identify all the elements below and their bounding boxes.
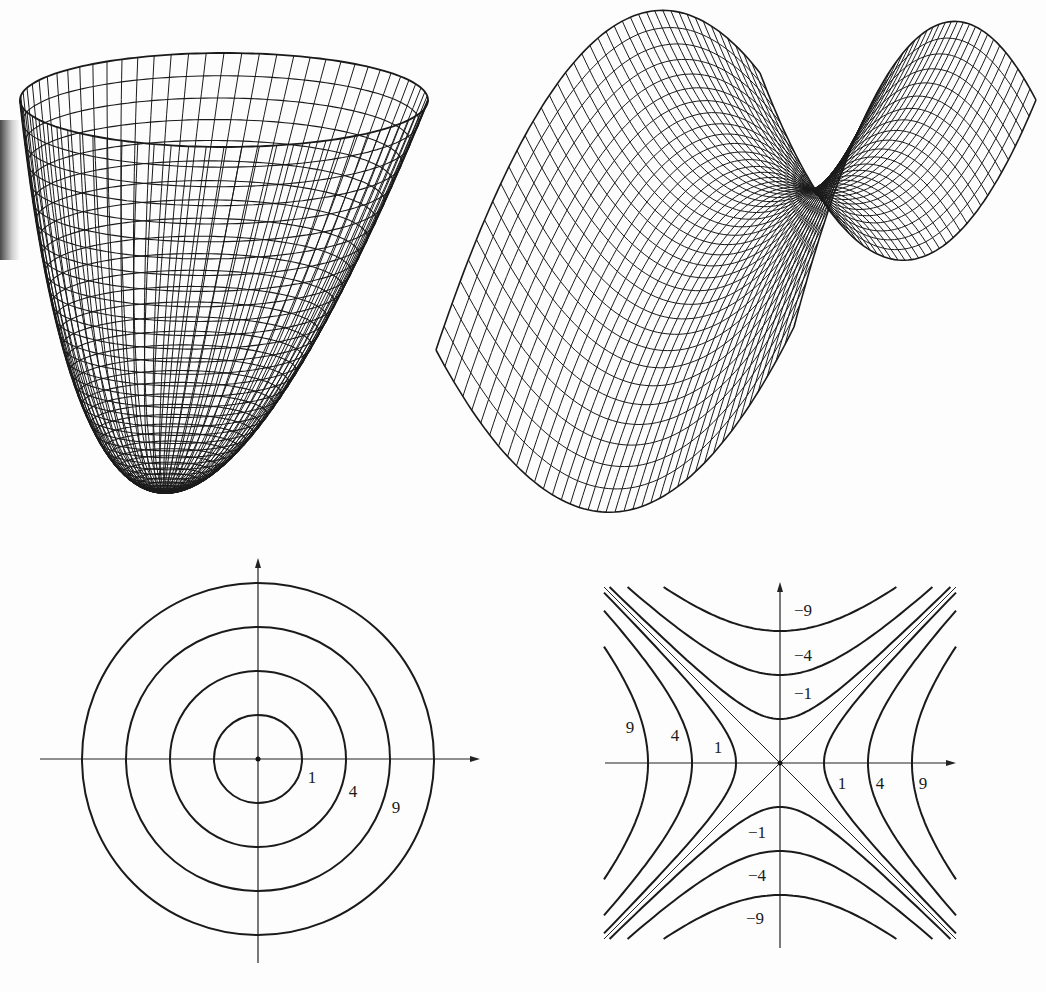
page-binding-shadow [0, 120, 20, 260]
contour-label: 9 [626, 718, 635, 737]
plot-curve [517, 134, 823, 466]
origin-dot [256, 757, 261, 762]
paraboloid-surface [20, 53, 428, 493]
x-axis-arrow-icon [470, 756, 480, 762]
contour-label: 1 [714, 738, 723, 757]
contour-label: −1 [794, 684, 812, 703]
plot-curve [597, 187, 884, 511]
plot-curve [722, 130, 980, 442]
y-axis-arrow-icon [255, 558, 261, 568]
plot-curve [460, 262, 812, 445]
contour-label: 4 [671, 726, 680, 745]
x-axis-arrow-icon [946, 760, 956, 766]
plot-curve [736, 46, 1018, 231]
y-axis-arrow-icon [777, 582, 783, 592]
plot-curve [758, 83, 1008, 392]
contour-label: 9 [392, 798, 401, 817]
contour-label: −9 [746, 909, 764, 928]
plot-curve [33, 161, 384, 242]
saddle-surface [436, 10, 1036, 512]
plot-curve [731, 120, 987, 431]
plot-curve [588, 185, 877, 510]
contour-label: 4 [349, 782, 358, 801]
contour-label: 1 [838, 774, 847, 793]
figure-page: 149 −9−4−1941149−1−4−9 [0, 0, 1046, 992]
plot-curve [647, 12, 952, 190]
circle-contour-plot: 149 [40, 558, 480, 963]
contour-label: 1 [308, 768, 317, 787]
plot-curve [728, 38, 1012, 223]
plot-curve [165, 77, 401, 493]
plot-curve [485, 205, 831, 386]
hyperbola-contour-plot: −9−4−1941149−1−4−9 [604, 582, 956, 948]
contour-label: −1 [748, 823, 766, 842]
contour-label: −4 [794, 646, 813, 665]
figure-canvas: 149 −9−4−1941149−1−4−9 [0, 0, 1046, 992]
plot-curve [703, 21, 993, 204]
plot-curve [614, 26, 927, 202]
contour-label: −9 [794, 601, 812, 620]
contour-label: 4 [876, 774, 885, 793]
contour-label: 9 [919, 774, 928, 793]
contour-label: −4 [748, 866, 767, 885]
